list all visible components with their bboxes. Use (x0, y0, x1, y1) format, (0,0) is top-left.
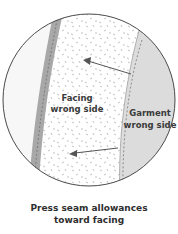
caption-line2: toward facing (0, 214, 178, 226)
seam-diagram: Facing wrong side Garment wrong side (0, 0, 178, 200)
facing-label-line2: wrong side (51, 104, 104, 114)
caption-line1: Press seam allowances (0, 202, 178, 214)
garment-label-line2: wrong side (124, 120, 177, 130)
facing-label-line1: Facing (61, 93, 92, 103)
garment-label-line1: Garment (129, 108, 171, 118)
